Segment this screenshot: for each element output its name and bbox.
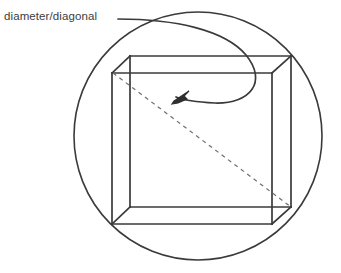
- annotation-leader: [118, 19, 256, 104]
- depth-edge-top-right: [272, 56, 291, 73]
- cuboid-depth-edges: [112, 56, 291, 224]
- diameter-diagonal-label: diameter/diagonal: [4, 9, 97, 23]
- depth-edge-top-left: [112, 56, 130, 73]
- geometry-diagram-figure: diameter/diagonal: [0, 0, 341, 273]
- diagram-canvas: [0, 0, 341, 273]
- leader-curve: [118, 19, 256, 103]
- depth-edge-bottom-left: [112, 207, 130, 224]
- leader-arrowhead-icon: [172, 91, 189, 104]
- cuboid-front-face: [112, 73, 272, 224]
- cuboid-back-face: [130, 56, 291, 207]
- dashed-diagonal-line: [113, 73, 291, 207]
- cuboid-shape: [112, 56, 291, 224]
